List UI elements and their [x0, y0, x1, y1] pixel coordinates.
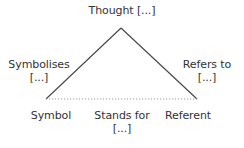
edge-stands-for-label: Stands for [...] [88, 109, 156, 135]
node-referent-label: Referent [160, 109, 216, 122]
edge-symbolises-label: Symbolises [...] [6, 58, 72, 84]
thought-text: Thought [...] [86, 4, 158, 17]
refers-to-text: Refers to [176, 58, 238, 71]
refers-to-ellipsis: [...] [176, 71, 238, 84]
stands-for-text: Stands for [88, 109, 156, 122]
semiotic-triangle-diagram: Thought [...] Symbolises [...] Refers to… [0, 0, 244, 148]
stands-for-ellipsis: [...] [88, 122, 156, 135]
node-symbol-label: Symbol [26, 109, 76, 122]
edge-refers-to-label: Refers to [...] [176, 58, 238, 84]
symbolises-text: Symbolises [6, 58, 72, 71]
symbolises-ellipsis: [...] [6, 71, 72, 84]
referent-text: Referent [160, 109, 216, 122]
node-thought-label: Thought [...] [86, 4, 158, 17]
symbol-text: Symbol [26, 109, 76, 122]
